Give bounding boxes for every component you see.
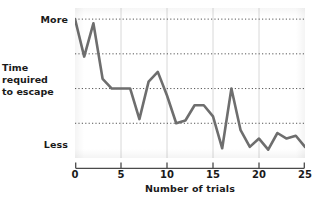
plot-svg <box>75 8 305 158</box>
x-axis <box>75 162 305 169</box>
x-axis-tick-label: 20 <box>246 169 272 180</box>
x-axis-svg <box>75 162 305 169</box>
y-axis-title-line-3: to escape <box>2 86 68 98</box>
plot-area <box>75 8 305 158</box>
y-axis-title: Time required to escape <box>2 62 68 98</box>
x-axis-tick-label: 10 <box>154 169 180 180</box>
y-axis-label-more: More <box>0 14 68 25</box>
horizontal-gridlines <box>75 19 305 123</box>
data-series-line <box>75 19 305 150</box>
y-axis-label-less: Less <box>0 139 68 150</box>
x-axis-title: Number of trials <box>75 183 305 194</box>
x-axis-tick-label: 0 <box>62 169 88 180</box>
vertical-gridlines <box>121 8 259 158</box>
x-axis-tick-label: 25 <box>292 169 318 180</box>
y-axis-title-line-2: required <box>2 74 68 86</box>
x-axis-ticks <box>76 162 305 168</box>
chart-figure: More Less Time required to escape 051015… <box>0 0 322 203</box>
x-axis-tick-label: 5 <box>108 169 134 180</box>
x-axis-tick-label: 15 <box>200 169 226 180</box>
y-axis-title-line-1: Time <box>2 62 68 74</box>
x-axis-tick-labels: 0510152025 <box>0 169 322 182</box>
